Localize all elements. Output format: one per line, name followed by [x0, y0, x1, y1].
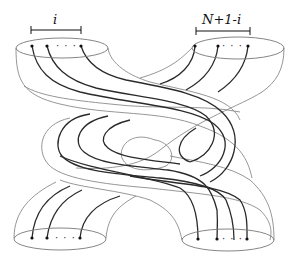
tube-braid-diagram: · · · · · · · · · · · · i N+1-i — [0, 0, 288, 265]
ellipsis: · · · — [56, 40, 77, 51]
tube-top-right-inner — [140, 48, 192, 78]
bracket-top-right: N+1-i — [196, 12, 250, 35]
strand — [218, 46, 248, 92]
port-top-right: · · · — [192, 37, 284, 59]
label-i: i — [53, 12, 57, 27]
strand — [160, 46, 195, 84]
strand-endpoint — [246, 44, 249, 47]
strands — [32, 46, 248, 240]
tube-bottom-right-inner — [60, 180, 182, 240]
strand — [32, 186, 70, 238]
tube-top-left-outer — [16, 48, 252, 178]
strand-endpoint — [79, 44, 82, 47]
tube-top-right-outer — [262, 48, 284, 92]
tube-middle-upper-edge — [24, 86, 240, 112]
strand — [179, 128, 196, 162]
port-bottom-right: · · · — [182, 229, 274, 251]
tube-outlines — [14, 48, 284, 240]
bracket-top-left: i — [31, 12, 81, 34]
strand — [80, 196, 120, 238]
tube-bottom-right-outer — [170, 156, 274, 240]
strand-endpoint — [45, 236, 48, 239]
port-bottom-left: · · · — [14, 228, 106, 250]
strand-endpoint — [196, 237, 199, 240]
tube-left-lobe — [42, 118, 271, 240]
strand-endpoint — [193, 44, 196, 47]
ellipsis: · · · — [222, 233, 243, 244]
ellipsis: · · · — [55, 232, 76, 243]
strand-endpoint — [45, 44, 48, 47]
strand-endpoint — [30, 236, 33, 239]
strand — [103, 120, 180, 164]
label-n-plus-1-minus-i: N+1-i — [201, 12, 241, 27]
strand-endpoint — [30, 44, 33, 47]
strand-endpoint — [245, 237, 248, 240]
port-top-left: · · · — [16, 38, 108, 58]
ellipsis: · · · — [222, 40, 243, 51]
strand — [186, 46, 218, 90]
tube-bottom-left-inner — [106, 196, 136, 238]
strand-endpoint — [215, 237, 218, 240]
strand-endpoint — [78, 236, 81, 239]
strand-endpoint — [216, 44, 219, 47]
